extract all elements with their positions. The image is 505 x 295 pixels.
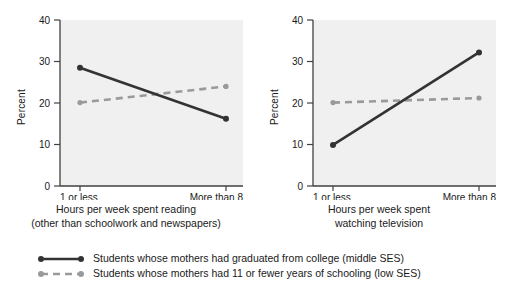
y-tick-label-30: 30 (39, 56, 51, 67)
x-axis-caption-left: Hours per week spent reading (other than… (0, 203, 252, 230)
y-ticks-right: 0 10 20 30 40 (292, 15, 313, 192)
x-tick-label-high-left: More than 8 (190, 192, 244, 200)
chart-legend: Students whose mothers had graduated fro… (0, 248, 505, 295)
legend-item-middle-ses: Students whose mothers had graduated fro… (38, 251, 404, 266)
legend-label-middle-ses: Students whose mothers had graduated fro… (93, 252, 404, 265)
y-tick-label-10: 10 (39, 139, 51, 150)
plot-background-left (60, 20, 243, 186)
x-axis-caption-right-line2: watching television (253, 217, 505, 231)
plot-area-left: 0 10 20 30 40 1 or less More than 8 (0, 0, 252, 200)
y-tick-label-40: 40 (39, 15, 51, 26)
y-tick-label-20: 20 (39, 98, 51, 109)
y-tick-label-0-right: 0 (297, 181, 303, 192)
x-axis-caption-right-line1: Hours per week spent (328, 203, 430, 215)
y-tick-label-0: 0 (44, 181, 50, 192)
chart-panels: Percent 0 10 20 30 (0, 0, 505, 245)
legend-label-low-ses: Students whose mothers had 11 or fewer y… (93, 267, 421, 280)
y-tick-label-20-right: 20 (292, 98, 304, 109)
plot-area-right: 0 10 20 30 40 1 or less More than 8 (253, 0, 505, 200)
x-tick-label-low-right: 1 or less (313, 192, 351, 200)
chart-panel-reading: Percent 0 10 20 30 (0, 0, 252, 245)
x-axis-caption-left-line1: Hours per week spent reading (56, 203, 196, 215)
legend-swatch-solid-icon (38, 253, 84, 265)
x-tick-label-high-right: More than 8 (443, 192, 497, 200)
plot-background-right (313, 20, 496, 186)
y-tick-label-30-right: 30 (292, 56, 304, 67)
legend-swatch-dashed-icon (38, 268, 84, 280)
figure: Percent 0 10 20 30 (0, 0, 505, 295)
x-ticks-left: 1 or less More than 8 (60, 186, 243, 200)
legend-item-low-ses: Students whose mothers had 11 or fewer y… (38, 266, 421, 281)
x-tick-label-low-left: 1 or less (60, 192, 98, 200)
y-tick-label-10-right: 10 (292, 139, 304, 150)
x-axis-caption-right: Hours per week spent watching television (253, 203, 505, 230)
x-ticks-right: 1 or less More than 8 (313, 186, 496, 200)
x-axis-caption-left-line2: (other than schoolwork and newspapers) (0, 217, 252, 231)
chart-panel-television: Percent 0 10 20 30 40 (253, 0, 505, 245)
y-ticks-left: 0 10 20 30 40 (39, 15, 60, 192)
y-tick-label-40-right: 40 (292, 15, 304, 26)
